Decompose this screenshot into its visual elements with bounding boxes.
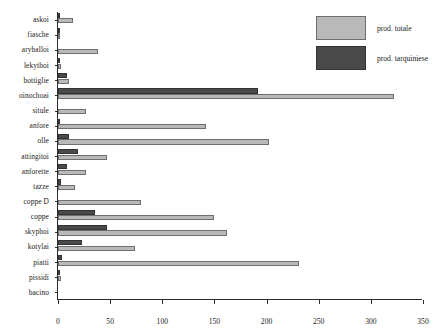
bar-tarquiniese: [58, 255, 62, 260]
y-axis-tick: [55, 171, 59, 172]
y-axis-tick: [55, 111, 59, 112]
legend-label-tarquiniese: prod. tarquiniese: [377, 54, 428, 63]
bar-totale: [58, 124, 206, 129]
y-axis-tick: [55, 186, 59, 187]
x-axis-tick: [162, 300, 163, 304]
bar-group: [58, 148, 422, 163]
y-axis-tick: [55, 232, 59, 233]
bar-group: [58, 103, 422, 118]
bar-tarquiniese: [58, 13, 60, 18]
y-axis-label: oinochoai: [19, 91, 49, 100]
bar-totale: [58, 276, 61, 281]
bar-totale: [58, 246, 135, 251]
x-axis-label: 150: [209, 317, 220, 326]
x-axis-tick: [58, 300, 59, 304]
y-axis-tick: [55, 277, 59, 278]
bar-totale: [58, 155, 107, 160]
y-axis-tick: [55, 35, 59, 36]
y-axis-tick: [55, 126, 59, 127]
y-axis-label: tazze: [33, 182, 49, 191]
y-axis-tick: [55, 247, 59, 248]
bar-tarquiniese: [58, 58, 60, 63]
y-axis-label: anforette: [22, 167, 49, 176]
bar-tarquiniese: [58, 134, 69, 139]
bar-tarquiniese: [58, 210, 95, 215]
bar-totale: [58, 170, 86, 175]
bar-tarquiniese: [58, 240, 82, 245]
bar-group: [58, 270, 422, 285]
y-axis-label: bacino: [29, 288, 49, 297]
bar-tarquiniese: [58, 179, 61, 184]
bar-tarquiniese: [58, 119, 60, 124]
x-axis-tick: [214, 300, 215, 304]
x-axis-tick: [319, 300, 320, 304]
x-axis-label: 250: [313, 317, 324, 326]
y-axis-tick: [55, 201, 59, 202]
x-axis-label: 0: [56, 317, 60, 326]
bar-totale: [58, 215, 214, 220]
x-axis-label: 100: [157, 317, 168, 326]
bar-totale: [58, 185, 75, 190]
y-axis-tick: [55, 95, 59, 96]
bar-group: [58, 239, 422, 254]
bar-totale: [58, 64, 61, 69]
bar-group: [58, 285, 422, 300]
y-axis-label: pissidi: [29, 273, 49, 282]
bar-totale: [58, 200, 141, 205]
bar-group: [58, 179, 422, 194]
y-axis-tick: [55, 217, 59, 218]
legend-label-total: prod. totale: [377, 24, 412, 33]
bar-totale: [58, 94, 394, 99]
x-axis-tick: [267, 300, 268, 304]
legend-item-total: prod. totale: [316, 14, 442, 44]
bar-tarquiniese: [58, 270, 60, 275]
bar-tarquiniese: [58, 164, 67, 169]
x-axis-label: 200: [261, 317, 272, 326]
y-axis-label: askoi: [33, 15, 49, 24]
y-axis-label: bottiglie: [23, 76, 49, 85]
y-axis-label: piatti: [33, 258, 49, 267]
legend-item-tarquiniese: prod. tarquiniese: [316, 44, 442, 74]
y-axis-label: fiasche: [27, 30, 49, 39]
legend-swatch-total: [316, 16, 366, 40]
legend: prod. totale prod. tarquiniese: [316, 14, 442, 74]
y-axis-tick: [55, 292, 59, 293]
legend-swatch-tarquiniese: [316, 46, 366, 70]
x-axis-tick: [110, 300, 111, 304]
x-axis-label: 50: [106, 317, 114, 326]
y-axis-label: situle: [32, 106, 49, 115]
bar-group: [58, 118, 422, 133]
y-axis-tick: [55, 156, 59, 157]
bar-totale: [58, 109, 86, 114]
y-axis-label: olle: [38, 136, 49, 145]
bar-tarquiniese: [58, 28, 60, 33]
y-axis-tick: [55, 80, 59, 81]
bar-group: [58, 255, 422, 270]
y-axis-label: coppe: [31, 212, 49, 221]
y-axis-label: coppe D: [23, 197, 49, 206]
x-axis-tick: [423, 300, 424, 304]
bar-totale: [58, 33, 60, 38]
y-axis-tick: [55, 262, 59, 263]
y-axis-tick: [55, 20, 59, 21]
bar-chart: askoifiaschearyballoilekythoibottiglieoi…: [0, 0, 445, 332]
y-axis-label: kotylai: [28, 242, 49, 251]
y-axis-label: anfore: [30, 121, 49, 130]
y-axis-label: skyphoi: [25, 227, 49, 236]
bar-group: [58, 224, 422, 239]
y-axis-tick: [55, 65, 59, 66]
bar-tarquiniese: [58, 73, 67, 78]
y-axis-label: aryballoi: [22, 45, 49, 54]
x-axis-label: 350: [417, 317, 428, 326]
bar-tarquiniese: [58, 225, 107, 230]
bar-group: [58, 209, 422, 224]
bar-group: [58, 73, 422, 88]
bar-group: [58, 194, 422, 209]
x-axis-tick: [371, 300, 372, 304]
y-axis-labels: askoifiaschearyballoilekythoibottiglieoi…: [0, 12, 53, 300]
bar-tarquiniese: [58, 149, 78, 154]
bar-group: [58, 88, 422, 103]
y-axis-label: attingitoi: [21, 152, 49, 161]
bar-totale: [58, 79, 69, 84]
bar-totale: [58, 49, 98, 54]
